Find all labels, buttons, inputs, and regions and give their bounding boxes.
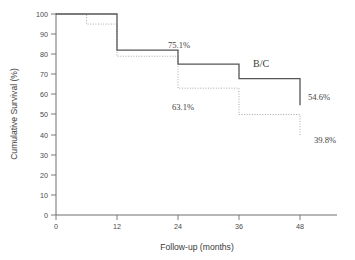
y-tick-label-0: 0 bbox=[44, 211, 48, 220]
x-tick-label-0: 0 bbox=[54, 222, 58, 231]
kaplan-meier-chart: 100 90 80 70 60 50 40 30 20 10 0 Cumulat… bbox=[0, 0, 355, 260]
annotation-39-8-percent: 39.8% bbox=[314, 135, 336, 145]
y-tick-label-90: 90 bbox=[40, 30, 48, 39]
x-tick-label-24: 24 bbox=[174, 222, 182, 231]
y-tick-label-80: 80 bbox=[40, 50, 48, 59]
y-tick-label-40: 40 bbox=[40, 131, 48, 140]
x-tick-label-12: 12 bbox=[113, 222, 121, 231]
y-tick-label-10: 10 bbox=[40, 191, 48, 200]
annotation-75-1-percent: 75.1% bbox=[168, 40, 190, 50]
annotation-54-6-percent: 54.6% bbox=[308, 92, 330, 102]
y-tick-label-20: 20 bbox=[40, 171, 48, 180]
plot-background bbox=[0, 0, 355, 260]
y-tick-label-30: 30 bbox=[40, 151, 48, 160]
x-axis-title: Follow-up (months) bbox=[160, 242, 234, 252]
y-tick-label-50: 50 bbox=[40, 110, 48, 119]
x-tick-label-36: 36 bbox=[235, 222, 243, 231]
y-axis-title: Cumulative Survival (%) bbox=[9, 68, 19, 160]
x-tick-label-48: 48 bbox=[296, 222, 304, 231]
survival-plot-svg: 100 90 80 70 60 50 40 30 20 10 0 Cumulat… bbox=[0, 0, 355, 260]
y-tick-label-60: 60 bbox=[40, 90, 48, 99]
y-tick-label-70: 70 bbox=[40, 70, 48, 79]
annotation-63-1-percent: 63.1% bbox=[172, 102, 194, 112]
series-label-bc: B/C bbox=[253, 58, 269, 69]
y-tick-label-100: 100 bbox=[36, 10, 48, 19]
